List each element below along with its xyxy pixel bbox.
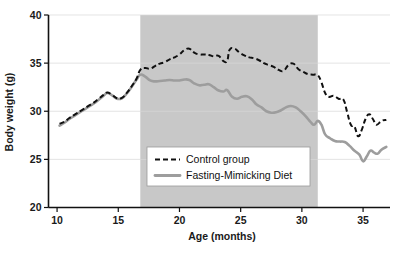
x-tick-label: 30 [296,214,308,226]
x-tick-label: 20 [174,214,186,226]
legend-label-control: Control group [186,153,250,165]
y-axis-title: Body weight (g) [3,73,15,152]
y-tick-label: 30 [30,105,42,117]
y-tick-label: 25 [30,153,42,165]
chart-legend: Control group Fasting-Mimicking Diet [147,147,310,186]
x-axis-title: Age (months) [188,230,256,242]
x-tick-label: 15 [112,214,124,226]
x-tick-label: 35 [357,214,369,226]
y-tick-label: 35 [30,57,42,69]
body-weight-line-chart: 2025303540101520253035 Body weight (g) A… [0,0,398,259]
legend-label-fmd: Fasting-Mimicking Diet [186,169,292,181]
y-tick-label: 40 [30,9,42,21]
y-tick-label: 20 [30,201,42,213]
x-tick-label: 10 [51,214,63,226]
chart-figure: 2025303540101520253035 Body weight (g) A… [0,0,398,259]
x-tick-label: 25 [235,214,247,226]
